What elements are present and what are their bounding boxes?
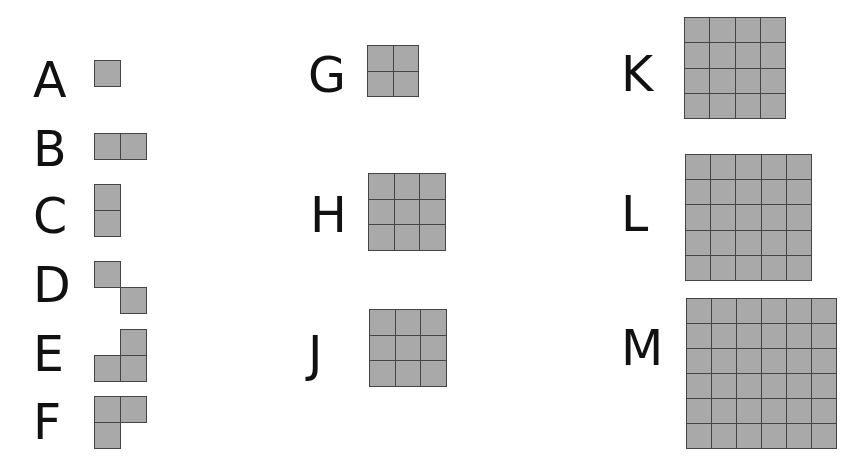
grid-cell [709,68,735,94]
grid-cell [686,373,712,399]
grid-cell [684,42,710,68]
shape-label-g: G [308,51,346,100]
grid-cell [368,224,395,251]
shape-label-e: E [33,330,64,379]
grid-cell [761,323,787,349]
grid-cell [761,255,787,281]
grid-cell [761,204,787,230]
grid-cell [761,230,787,256]
grid-cell [420,335,447,362]
grid-cell [811,348,837,374]
grid-cell [684,17,710,43]
grid-cell [369,335,396,362]
grid-cell [420,360,447,387]
grid-cell [761,398,787,424]
grid-cell [94,210,121,237]
grid-cell [94,422,121,449]
grid-cell [94,261,121,288]
grid-cell [94,355,121,382]
grid-cell [786,204,812,230]
grid-cell [367,45,394,72]
grid-cell [369,360,396,387]
grid-cell [368,173,395,200]
grid-cell [120,133,147,160]
grid-cell [761,348,787,374]
grid-cell [419,173,446,200]
grid-cell [709,93,735,119]
grid-cell [811,298,837,324]
grid-cell [761,179,787,205]
grid-cell [711,373,737,399]
grid-cell [811,373,837,399]
grid-cell [94,133,121,160]
grid-cell [786,154,812,180]
grid-cell [94,60,121,87]
grid-cell [786,230,812,256]
grid-cell [394,173,421,200]
grid-cell [786,179,812,205]
grid-cell [761,423,787,449]
grid-cell [684,93,710,119]
shape-label-f: F [33,398,61,447]
grid-cell [711,348,737,374]
grid-cell [120,287,147,314]
grid-cell [685,230,711,256]
shape-label-l: L [621,190,648,239]
grid-cell [367,71,394,98]
grid-cell [761,373,787,399]
grid-cell [735,179,761,205]
grid-cell [736,423,762,449]
grid-cell [709,17,735,43]
grid-cell [711,423,737,449]
grid-cell [735,154,761,180]
grid-cell [710,204,736,230]
grid-cell [686,398,712,424]
grid-cell [711,298,737,324]
grid-cell [685,179,711,205]
grid-cell [710,179,736,205]
grid-cell [395,335,422,362]
grid-cell [395,309,422,336]
grid-cell [709,42,735,68]
grid-cell [735,42,761,68]
grid-cell [686,298,712,324]
shape-label-d: D [33,261,71,310]
grid-cell [710,154,736,180]
grid-cell [685,154,711,180]
grid-cell [786,398,812,424]
grid-cell [120,329,147,356]
grid-cell [711,323,737,349]
grid-cell [686,323,712,349]
grid-cell [786,323,812,349]
grid-cell [395,360,422,387]
shape-label-k: K [621,50,653,99]
grid-cell [786,373,812,399]
grid-cell [735,230,761,256]
grid-cell [760,17,786,43]
grid-cell [760,42,786,68]
grid-cell [120,396,147,423]
grid-cell [710,230,736,256]
grid-cell [368,199,395,226]
grid-cell [811,398,837,424]
grid-cell [736,323,762,349]
grid-cell [736,298,762,324]
shape-label-c: C [33,192,67,241]
grid-cell [419,224,446,251]
grid-cell [735,17,761,43]
grid-cell [420,309,447,336]
grid-cell [786,255,812,281]
grid-cell [369,309,396,336]
grid-cell [393,71,420,98]
grid-cell [786,348,812,374]
grid-cell [736,373,762,399]
grid-cell [684,68,710,94]
grid-cell [94,184,121,211]
grid-cell [685,204,711,230]
grid-cell [786,298,812,324]
grid-cell [786,423,812,449]
grid-cell [686,348,712,374]
shape-label-h: H [310,191,347,240]
grid-cell [711,398,737,424]
shape-label-j: J [308,330,322,379]
